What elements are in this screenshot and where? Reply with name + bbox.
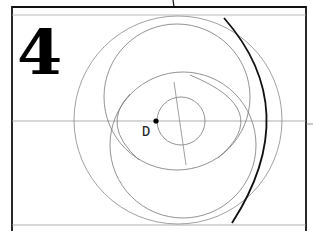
tilted-axis-line	[174, 82, 186, 165]
point-d-label: D	[142, 123, 150, 139]
top-connector-line	[173, 0, 174, 7]
left-construction-arc	[117, 94, 139, 160]
point-d	[153, 118, 158, 123]
step-number: 4	[17, 22, 60, 84]
highlight-arc	[224, 18, 267, 223]
outer-circle	[74, 16, 282, 224]
right-construction-arc	[190, 75, 241, 158]
